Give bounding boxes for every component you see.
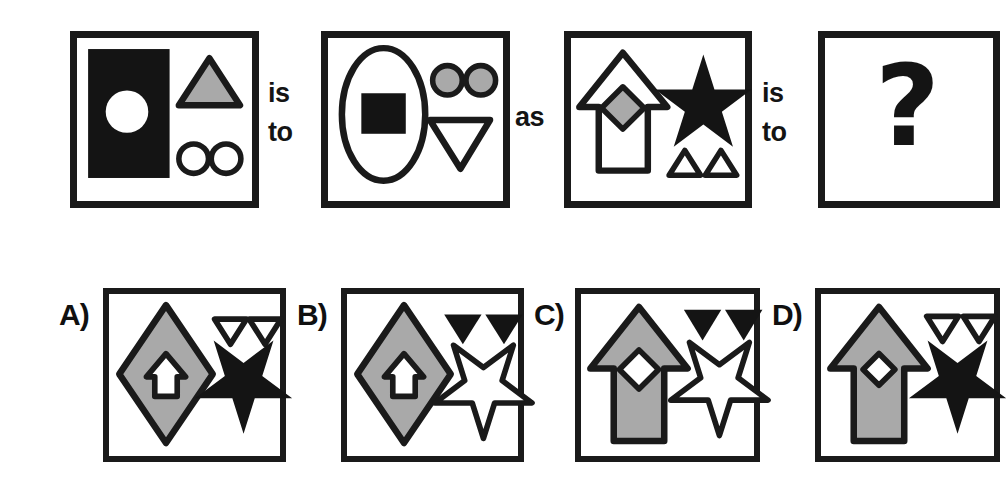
tiny-triangle-down-2 bbox=[963, 316, 995, 341]
tiny-triangle-up-1 bbox=[669, 150, 700, 175]
tiny-triangle-down-1 bbox=[215, 319, 247, 344]
option-c-label: C) bbox=[534, 300, 564, 330]
tiny-triangle-down-2 bbox=[725, 310, 762, 341]
prompt-panel-4-answer-slot: ? bbox=[818, 31, 1000, 208]
option-b-label: B) bbox=[297, 300, 327, 330]
prompt-panel-3 bbox=[564, 31, 752, 208]
relation-as: as bbox=[515, 103, 559, 131]
tiny-triangle-down-1 bbox=[444, 314, 481, 344]
prompt-panel-2-figure bbox=[328, 38, 503, 201]
prompt-panel-3-figure bbox=[571, 38, 745, 201]
prompt-panel-1 bbox=[70, 31, 259, 208]
white-triangle-down-shape bbox=[430, 120, 490, 169]
option-d-figure bbox=[821, 294, 994, 456]
prompt-panel-3-content bbox=[571, 38, 745, 201]
question-mark: ? bbox=[875, 50, 940, 162]
prompt-panel-2 bbox=[321, 31, 510, 208]
analogy-puzzle: is to as bbox=[0, 0, 1007, 479]
prompt-panel-2-content bbox=[328, 38, 503, 201]
tiny-triangle-down-1 bbox=[927, 316, 959, 341]
option-a-label: A) bbox=[59, 300, 89, 330]
small-circle-outline-2 bbox=[211, 144, 241, 173]
small-circle-outline-1 bbox=[179, 144, 209, 173]
white-circle-shape bbox=[106, 90, 149, 132]
option-d-label: D) bbox=[772, 300, 802, 330]
option-c-figure bbox=[581, 294, 754, 456]
tiny-triangle-up-2 bbox=[705, 150, 736, 175]
black-star-down-shape bbox=[909, 341, 1006, 434]
white-star-down-shape bbox=[671, 342, 768, 435]
option-a-figure bbox=[109, 294, 280, 456]
tiny-triangle-down-2 bbox=[485, 314, 522, 344]
option-b-figure bbox=[347, 294, 518, 456]
relation-is-to-first: is to bbox=[268, 74, 314, 152]
small-gray-circle-2 bbox=[466, 66, 496, 95]
tiny-triangle-down-2 bbox=[249, 319, 281, 344]
black-star-up-shape bbox=[655, 55, 751, 147]
prompt-panel-4-content: ? bbox=[825, 38, 993, 201]
black-square-shape bbox=[361, 93, 405, 134]
option-a-content bbox=[109, 294, 280, 456]
relation-is-to-second: is to bbox=[762, 74, 808, 152]
tiny-triangle-down-1 bbox=[684, 310, 721, 341]
prompt-panel-1-content bbox=[77, 38, 252, 201]
option-a-panel[interactable] bbox=[103, 288, 286, 462]
gray-triangle-up-shape bbox=[179, 58, 240, 105]
option-c-content bbox=[581, 294, 754, 456]
small-gray-circle-1 bbox=[433, 66, 463, 95]
prompt-panel-1-figure bbox=[77, 38, 252, 201]
white-star-down-shape bbox=[435, 345, 532, 438]
option-b-content bbox=[347, 294, 518, 456]
option-d-panel[interactable] bbox=[815, 288, 1000, 462]
option-c-panel[interactable] bbox=[575, 288, 760, 462]
option-d-content bbox=[821, 294, 994, 456]
option-b-panel[interactable] bbox=[341, 288, 524, 462]
black-star-down-shape bbox=[195, 341, 292, 434]
